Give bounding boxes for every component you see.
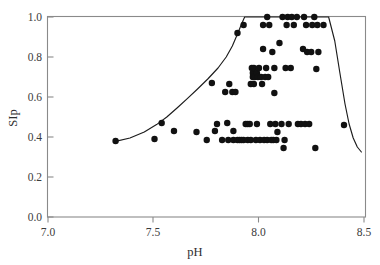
data-point [112,138,118,144]
data-point [320,22,326,28]
fitted-response-curve [116,17,362,152]
data-point [306,121,312,127]
data-point [283,22,289,28]
data-point [315,49,321,55]
data-point [222,89,228,95]
x-axis-title: pH [187,245,202,259]
data-point [311,14,317,20]
data-point [254,121,260,127]
data-point [209,80,215,86]
data-point [269,49,275,55]
y-axis-ticks [48,17,54,217]
chart-figure: 1.0 0.8 0.6 0.4 0.2 0.0 7.0 7.5 8.0 8.5 … [0,0,380,265]
data-point [274,129,280,135]
data-point [219,137,225,143]
data-point [226,81,232,87]
data-point [224,120,230,126]
data-point [260,22,266,28]
data-point [271,65,277,71]
data-point [314,22,320,28]
y-tick-label-0.0: 0.0 [28,211,43,223]
data-point [266,22,272,28]
plot-frame [48,17,366,218]
data-point [303,22,309,28]
data-point [240,22,246,28]
data-point [212,128,218,134]
data-point [264,14,270,20]
data-point [171,128,177,134]
data-point [301,14,307,20]
data-point [341,122,347,128]
data-point [278,121,284,127]
data-point [291,22,297,28]
data-point [151,136,157,142]
scatter-plot-svg: 1.0 0.8 0.6 0.4 0.2 0.0 7.0 7.5 8.0 8.5 … [0,0,380,265]
y-tick-label-0.8: 0.8 [28,51,43,63]
x-tick-label-8.0: 8.0 [251,226,266,238]
x-tick-label-7.5: 7.5 [146,226,161,238]
x-axis-tick-labels: 7.0 7.5 8.0 8.5 [41,226,372,238]
data-point [272,121,278,127]
data-point [204,137,210,143]
data-point [271,90,277,96]
data-point [312,145,318,151]
data-point [232,89,238,95]
y-axis-tick-labels: 1.0 0.8 0.6 0.4 0.2 0.0 [28,11,43,223]
x-axis-ticks [48,217,364,223]
data-point [230,128,236,134]
data-point [285,121,291,127]
y-axis-title: SIp [6,109,20,126]
x-tick-label-7.0: 7.0 [41,226,56,238]
data-point [263,65,269,71]
data-point [313,66,319,72]
data-point [251,81,257,87]
data-point [259,81,265,87]
data-point [273,137,279,143]
y-tick-label-1.0: 1.0 [28,11,43,23]
data-point [281,137,287,143]
data-point [276,40,282,46]
data-point [193,129,199,135]
x-tick-label-8.5: 8.5 [357,226,372,238]
data-point [234,30,240,36]
data-point [265,74,271,80]
data-point [214,121,220,127]
data-point [308,49,314,55]
data-point [260,46,266,52]
y-tick-label-0.6: 0.6 [28,91,43,103]
data-point [288,65,294,71]
data-point [247,121,253,127]
y-tick-label-0.4: 0.4 [28,131,43,143]
data-point [280,145,286,151]
y-tick-label-0.2: 0.2 [28,171,43,183]
data-point [294,14,300,20]
data-point [158,120,164,126]
data-point [256,65,262,71]
